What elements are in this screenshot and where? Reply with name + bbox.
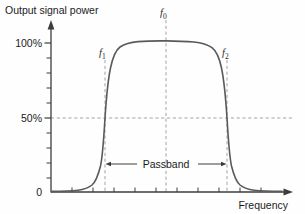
chart-background	[0, 0, 305, 214]
y-axis-label: Output signal power	[5, 4, 99, 16]
y-tick-label-50: 50%	[21, 112, 42, 124]
y-tick-label-100: 100%	[15, 37, 42, 49]
x-axis-label: Frequency	[238, 199, 288, 211]
passband-label: Passband	[143, 158, 190, 170]
marker-f2-sub: 2	[225, 52, 229, 61]
marker-f1-sub: 1	[102, 52, 106, 61]
y-tick-label-0: 0	[36, 186, 42, 198]
bandpass-filter-chart: Output signal power 100% 50% 0	[0, 0, 305, 214]
marker-f0-sub: 0	[163, 12, 167, 21]
